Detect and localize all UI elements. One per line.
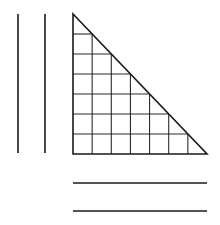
horizontal-lines-pair: [73, 183, 207, 211]
triangle-grid-lines: [73, 34, 188, 154]
grid-triangle-diagram: [0, 0, 220, 225]
triangle-outline: [73, 14, 207, 154]
gridded-right-triangle: [73, 14, 207, 154]
vertical-lines-pair: [18, 14, 45, 153]
